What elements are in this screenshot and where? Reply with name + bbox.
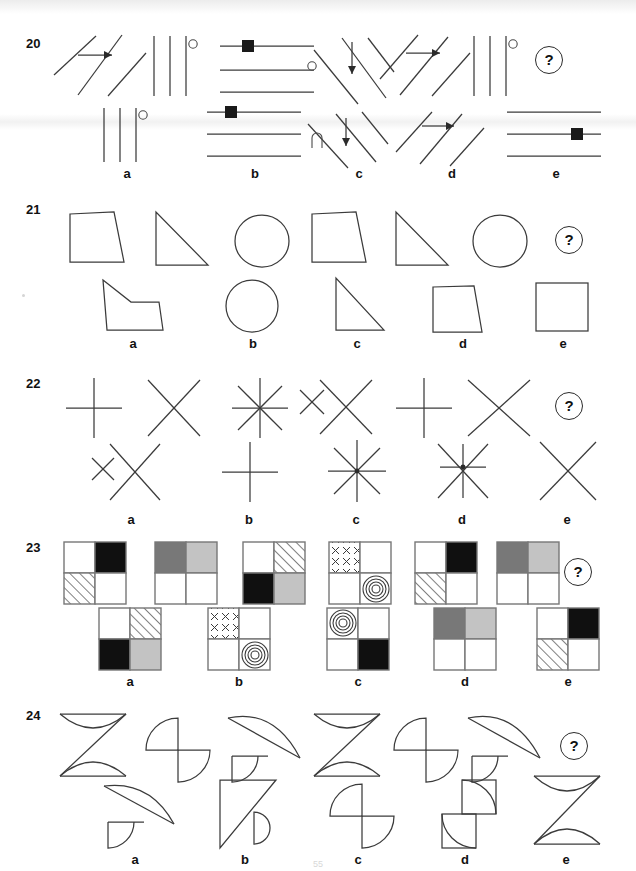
option-letter-e-row-23: e — [553, 674, 583, 689]
option-figure-b-row-20[interactable] — [205, 108, 305, 162]
puzzle-row-22: 22 — [0, 368, 636, 513]
option-figure-e-row-22[interactable] — [534, 438, 604, 506]
page-number: 55 — [0, 859, 636, 869]
option-figure-c-row-23 — [327, 608, 389, 670]
figure-pinwheel-quarters-2 — [388, 712, 462, 786]
puzzle-row-23: 23 — [0, 534, 636, 679]
figure-grid-4 — [329, 542, 391, 604]
option-letter-d-row-20: d — [437, 166, 467, 181]
figure-circle — [232, 212, 296, 272]
figure-grid-2 — [155, 542, 217, 604]
row-number-24: 24 — [26, 708, 40, 723]
puzzle-row-21: 21 — [0, 196, 636, 336]
option-figure-e-row-24[interactable] — [528, 770, 608, 856]
option-figure-a-row-23 — [99, 608, 161, 670]
figure-pinwheel-quarters — [140, 712, 214, 786]
option-figure-b-row-23 — [208, 608, 270, 670]
figure-z-with-arcs — [56, 708, 132, 788]
option-letter-b-row-21: b — [238, 336, 268, 351]
question-mark-22[interactable]: ? — [555, 392, 583, 420]
option-figure-e-row-21[interactable] — [533, 280, 595, 336]
question-mark-20[interactable]: ? — [535, 46, 563, 74]
option-letter-d-row-21: d — [448, 336, 478, 351]
option-letter-d-row-22: d — [447, 512, 477, 527]
figure-circle-2 — [470, 212, 534, 272]
option-letter-a-row-20: a — [112, 166, 142, 181]
option-figure-a-row-21[interactable] — [97, 278, 169, 336]
option-figure-a-row-24[interactable] — [96, 780, 180, 856]
option-figure-d-row-21[interactable] — [430, 284, 496, 338]
figure-eight-point-asterisk — [228, 376, 292, 440]
figure-three-vertical-lines-with-circle-2 — [468, 34, 526, 104]
option-figure-d-row-22[interactable] — [430, 438, 496, 506]
option-letter-c-row-22: c — [341, 512, 371, 527]
puzzle-row-20: 20 — [0, 28, 636, 178]
option-figure-d-row-24[interactable] — [434, 776, 508, 858]
option-letter-c-row-23: c — [343, 674, 373, 689]
option-letter-c-row-21: c — [342, 336, 372, 351]
option-letter-d-row-23: d — [450, 674, 480, 689]
figure-right-triangle — [152, 210, 220, 272]
figure-grid-5 — [415, 542, 477, 604]
figure-x-cross-2 — [462, 376, 538, 440]
option-letter-a-row-23: a — [115, 674, 145, 689]
question-mark-24[interactable]: ? — [560, 732, 588, 760]
question-mark-21[interactable]: ? — [555, 226, 583, 254]
scan-smudge-top — [0, 0, 636, 14]
figure-grid-1 — [64, 542, 126, 604]
figure-x-cross — [142, 376, 206, 440]
option-letter-c-row-20: c — [344, 166, 374, 181]
figure-three-vertical-lines-with-circle — [148, 34, 206, 104]
test-page: 20 — [0, 0, 636, 871]
question-mark-23[interactable]: ? — [564, 558, 592, 586]
option-figure-b-row-21[interactable] — [222, 278, 286, 336]
option-figure-a-row-20[interactable] — [98, 104, 156, 166]
figure-right-triangle-2 — [392, 210, 460, 272]
option-figure-d-row-20[interactable] — [392, 100, 502, 170]
option-figure-c-row-22[interactable] — [324, 438, 390, 506]
option-figure-e-row-23 — [537, 608, 599, 670]
option-letter-e-row-22: e — [552, 512, 582, 527]
figure-three-diagonal-lines-with-arrow — [50, 33, 160, 113]
figure-plus-cross-2 — [392, 376, 456, 440]
row-number-21: 21 — [26, 202, 40, 217]
option-letter-b-row-20: b — [240, 166, 270, 181]
option-figure-c-row-24[interactable] — [324, 778, 398, 852]
figure-small-x-and-large-x — [298, 376, 378, 440]
figure-trapezoid — [68, 210, 136, 272]
option-letter-a-row-22: a — [116, 512, 146, 527]
option-letter-e-row-20: e — [541, 166, 571, 181]
row-number-22: 22 — [26, 376, 40, 391]
row-number-20: 20 — [26, 36, 40, 51]
option-letter-b-row-22: b — [234, 512, 264, 527]
option-figure-c-row-21[interactable] — [332, 276, 396, 336]
option-figure-b-row-24[interactable] — [214, 776, 286, 858]
option-letter-b-row-23: b — [224, 674, 254, 689]
figure-plus-cross — [62, 376, 126, 440]
option-figure-d-row-23 — [434, 608, 496, 670]
option-letter-e-row-21: e — [548, 336, 578, 351]
figure-grid-3 — [243, 542, 305, 604]
figure-z-with-arcs-2 — [310, 708, 386, 788]
option-figure-e-row-20[interactable] — [505, 108, 605, 162]
figure-grid-6 — [497, 542, 559, 604]
option-figure-b-row-22[interactable] — [218, 440, 282, 506]
figure-trapezoid-2 — [310, 210, 378, 272]
option-letter-a-row-21: a — [118, 336, 148, 351]
puzzle-row-24: 24 — [0, 700, 636, 860]
option-figure-a-row-22[interactable] — [88, 440, 168, 506]
